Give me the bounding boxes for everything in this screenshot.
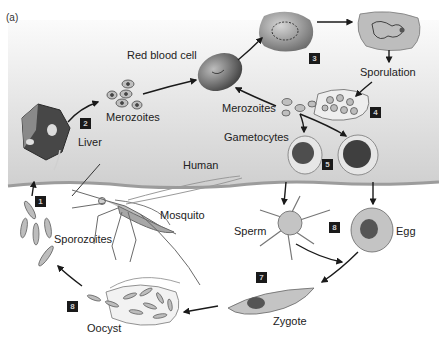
label-oocyst: Oocyst [87, 323, 121, 334]
oocyst [87, 278, 180, 326]
label-merozoites-liver: Merozoites [106, 112, 160, 123]
label-zygote: Zygote [273, 316, 307, 327]
malaria-life-cycle-diagram: (a) Red blood cell Merozoites Liver Spor… [0, 0, 439, 337]
diagram-artwork [0, 0, 439, 337]
label-human: Human [183, 160, 218, 171]
label-sporulation: Sporulation [360, 67, 416, 78]
panel-label: (a) [6, 12, 18, 23]
step-7-badge: 7 [256, 272, 267, 283]
infected-red-blood-cell [259, 12, 313, 52]
step-3-badge: 3 [309, 53, 320, 64]
label-mosquito: Mosquito [160, 210, 205, 221]
step-4-badge: 4 [370, 107, 381, 118]
step-8-badge: 8 [67, 301, 78, 312]
label-gametocytes: Gametocytes [224, 132, 289, 143]
label-sperm: Sperm [234, 226, 266, 237]
step-2-badge: 2 [80, 118, 91, 129]
label-merozoites-blood: Merozoites [222, 103, 276, 114]
sperm-microgamete [260, 196, 330, 260]
step-5-badge: 5 [322, 159, 333, 170]
label-red-blood-cell: Red blood cell [127, 50, 197, 61]
zygote-ookinete [228, 288, 314, 314]
step-1-badge: 1 [35, 196, 46, 207]
label-sporozoites: Sporozoites [54, 234, 112, 245]
step-6-badge: 8 [329, 222, 340, 233]
label-liver: Liver [78, 137, 102, 148]
schizont-cell [358, 12, 420, 51]
egg-macrogamete [351, 208, 393, 252]
label-egg: Egg [396, 226, 416, 237]
sporozoites [19, 200, 55, 268]
